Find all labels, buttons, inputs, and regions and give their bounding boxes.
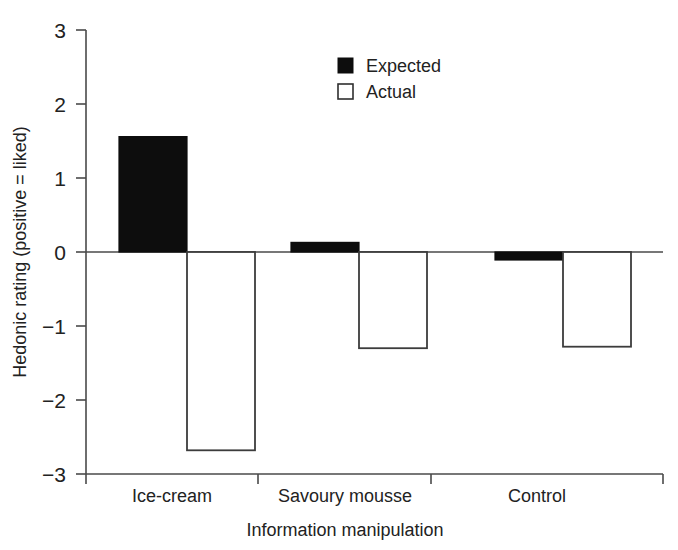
x-category-label-ice-cream: Ice-cream <box>132 486 212 506</box>
y-tick-label-3: 3 <box>54 19 66 42</box>
legend-label-actual: Actual <box>366 82 416 102</box>
y-tick-label-0: 0 <box>54 241 66 264</box>
y-tick-label-neg2: −2 <box>42 389 66 412</box>
x-category-label-savoury-mousse: Savoury mousse <box>278 486 412 506</box>
bar-actual-savoury-mousse[interactable] <box>359 252 427 348</box>
bar-expected-savoury-mousse[interactable] <box>291 242 359 252</box>
chart-figure: 3 2 1 0 −1 −2 −3 Hedonic rating (positiv… <box>0 0 678 550</box>
y-tick-label-neg3: −3 <box>42 463 66 486</box>
bar-actual-ice-cream[interactable] <box>187 252 255 450</box>
x-axis-title: Information manipulation <box>246 520 443 540</box>
bar-chart-svg: 3 2 1 0 −1 −2 −3 Hedonic rating (positiv… <box>0 0 678 550</box>
open-square-icon <box>338 84 353 99</box>
y-tick-label-1: 1 <box>54 167 66 190</box>
bar-expected-ice-cream[interactable] <box>119 137 187 252</box>
filled-square-icon <box>338 58 353 73</box>
legend-label-expected: Expected <box>366 56 441 76</box>
x-category-label-control: Control <box>508 486 566 506</box>
legend-item-actual[interactable]: Actual <box>338 82 416 102</box>
legend-item-expected[interactable]: Expected <box>338 56 441 76</box>
y-tick-label-2: 2 <box>54 93 66 116</box>
bar-expected-control[interactable] <box>495 252 563 260</box>
y-axis-title: Hedonic rating (positive = liked) <box>10 126 30 378</box>
y-tick-label-neg1: −1 <box>42 315 66 338</box>
bar-actual-control[interactable] <box>563 252 631 347</box>
